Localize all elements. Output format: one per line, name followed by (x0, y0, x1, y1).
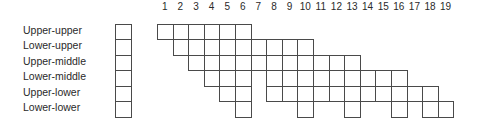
grid-cell (282, 70, 299, 87)
column-number: 14 (360, 1, 376, 12)
row-label: Upper-upper (23, 23, 82, 39)
column-number: 10 (297, 1, 313, 12)
key-cell (115, 86, 132, 103)
key-cell (115, 39, 132, 56)
grid-cell (344, 70, 361, 87)
grid-cell (235, 55, 252, 72)
column-number: 18 (422, 1, 438, 12)
grid-cell (391, 70, 408, 87)
grid-cell (266, 55, 283, 72)
column-number: 16 (391, 1, 407, 12)
grid-cell (313, 55, 330, 72)
key-cell (115, 24, 132, 41)
grid-cell (266, 86, 283, 103)
grid-cell (297, 70, 314, 87)
column-number: 7 (251, 1, 267, 12)
grid-cell (329, 55, 346, 72)
grid-cell (360, 70, 377, 87)
column-number: 8 (266, 1, 282, 12)
column-number: 5 (219, 1, 235, 12)
grid-cell (438, 101, 455, 118)
grid-cell (282, 39, 299, 56)
grid-cell (266, 39, 283, 56)
row-label: Upper-lower (23, 85, 80, 101)
column-number: 4 (204, 1, 220, 12)
grid-cell (235, 101, 252, 118)
grid-cell (157, 24, 174, 41)
grid-cell (329, 70, 346, 87)
column-number: 9 (282, 1, 298, 12)
key-cell (115, 70, 132, 87)
grid-cell (235, 86, 252, 103)
row-label: Lower-middle (23, 69, 86, 85)
column-number: 17 (407, 1, 423, 12)
column-number: 6 (235, 1, 251, 12)
grid-cell (297, 39, 314, 56)
grid-cell (251, 39, 268, 56)
grid-cell (329, 86, 346, 103)
grid-cell (235, 24, 252, 41)
row-label: Lower-lower (23, 100, 80, 116)
column-number: 13 (344, 1, 360, 12)
column-number: 1 (157, 1, 173, 12)
grid-cell (391, 86, 408, 103)
grid-cell (219, 39, 236, 56)
grid-cell (219, 24, 236, 41)
grid-cell (173, 24, 190, 41)
grid-cell (282, 86, 299, 103)
key-cell (115, 101, 132, 118)
column-number: 12 (329, 1, 345, 12)
grid-cell (282, 55, 299, 72)
grid-cell (188, 39, 205, 56)
grid-cell (422, 86, 439, 103)
row-label: Lower-upper (23, 38, 82, 54)
grid-cell (375, 70, 392, 87)
grid-cell (313, 70, 330, 87)
column-number: 19 (438, 1, 454, 12)
grid-cell (219, 55, 236, 72)
grid-cell (344, 55, 361, 72)
grid-cell (391, 101, 408, 118)
grid-cell (173, 39, 190, 56)
grid-cell (344, 101, 361, 118)
grid-cell (266, 70, 283, 87)
grid-cell (407, 86, 424, 103)
row-label: Upper-middle (23, 54, 86, 70)
grid-cell (204, 24, 221, 41)
column-number: 11 (313, 1, 329, 12)
key-cell (115, 55, 132, 72)
grid-cell (204, 70, 221, 87)
column-number: 2 (173, 1, 189, 12)
grid-cell (235, 70, 252, 87)
grid-cell (219, 70, 236, 87)
grid-cell (219, 86, 236, 103)
grid-cell (422, 101, 439, 118)
column-number: 15 (375, 1, 391, 12)
grid-cell (188, 55, 205, 72)
grid-cell (204, 39, 221, 56)
grid-cell (297, 55, 314, 72)
grid-cell (344, 86, 361, 103)
grid-cell (297, 86, 314, 103)
grid-cell (375, 86, 392, 103)
grid-cell (235, 39, 252, 56)
grid-cell (251, 55, 268, 72)
grid-cell (360, 86, 377, 103)
column-number: 3 (188, 1, 204, 12)
grid-cell (188, 24, 205, 41)
grid-cell (313, 86, 330, 103)
grid-cell (297, 101, 314, 118)
grid-cell (204, 55, 221, 72)
